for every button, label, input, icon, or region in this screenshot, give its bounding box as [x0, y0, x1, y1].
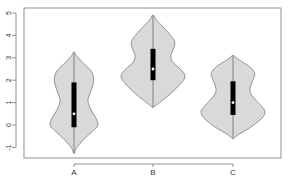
x-tick-label: B — [150, 168, 155, 177]
x-axis: ABC — [71, 164, 236, 177]
y-tick-label: 2 — [5, 78, 12, 82]
y-tick-label: 0 — [5, 123, 12, 127]
y-tick-label: 3 — [5, 56, 12, 60]
median-point-b — [152, 68, 155, 71]
y-tick-label: 4 — [5, 33, 12, 37]
x-tick-label: A — [71, 168, 77, 177]
y-axis: -1012345 — [5, 11, 16, 151]
violin-chart: -1012345 ABC — [0, 0, 288, 194]
median-point-c — [232, 101, 235, 104]
iqr-box-b — [151, 49, 156, 80]
x-tick-label: C — [230, 168, 236, 177]
median-point-a — [73, 112, 76, 115]
iqr-box-a — [72, 82, 77, 127]
violins — [50, 15, 265, 154]
y-tick-label: 5 — [5, 11, 12, 15]
y-tick-label: -1 — [5, 144, 12, 150]
y-tick-label: 1 — [5, 101, 12, 105]
iqr-box-c — [231, 81, 236, 115]
